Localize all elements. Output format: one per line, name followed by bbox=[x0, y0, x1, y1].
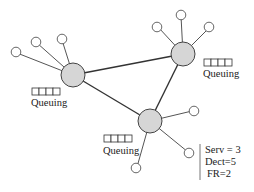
queue-label-left: Queuing bbox=[31, 97, 68, 108]
queue-boxes-top-right bbox=[204, 59, 232, 66]
leaf-node bbox=[131, 163, 141, 173]
queue-boxes-left bbox=[32, 88, 60, 95]
stat-fr: FR=2 bbox=[207, 168, 231, 179]
edge-left-bottom bbox=[73, 75, 150, 121]
leaf-node bbox=[152, 22, 162, 32]
queue-label-bottom: Queuing bbox=[103, 145, 140, 156]
leaf-node bbox=[11, 47, 21, 57]
network-diagram: Queuing Queuing Queuing Serv = 3 Dect=5 … bbox=[0, 0, 254, 192]
leaf-node bbox=[184, 148, 194, 158]
queue-label-top-right: Queuing bbox=[203, 68, 240, 79]
hub-left bbox=[61, 63, 85, 87]
edge-left-topright bbox=[73, 54, 183, 75]
hub-bottom bbox=[138, 109, 162, 133]
leaf-node bbox=[176, 10, 186, 20]
hub-top-right bbox=[171, 42, 195, 66]
leaf-node bbox=[57, 34, 67, 44]
queue-boxes-bottom bbox=[104, 135, 132, 142]
stat-serv: Serv = 3 bbox=[205, 144, 241, 155]
leaf-node bbox=[189, 106, 199, 116]
stat-dect: Dect=5 bbox=[205, 156, 236, 167]
leaf-node bbox=[204, 22, 214, 32]
leaf-node bbox=[31, 37, 41, 47]
